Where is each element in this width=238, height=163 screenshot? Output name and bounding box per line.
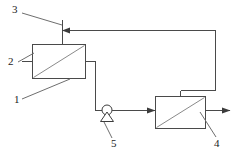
- permeate-outlet-arrowhead-icon: [222, 108, 231, 114]
- leader-line-3: [22, 13, 62, 25]
- second-membrane-module: [156, 97, 206, 129]
- circulation-pump: [101, 105, 114, 122]
- reference-label-5: 5: [111, 138, 117, 149]
- first-membrane-module: [22, 45, 86, 79]
- reference-label-4: 4: [214, 138, 220, 149]
- feed-inlet-arrowhead-icon: [62, 28, 70, 34]
- right-side-return-path: [181, 31, 216, 97]
- right-module-inlet-arrowhead-icon: [147, 108, 156, 114]
- flow-diagram-canvas: [0, 0, 238, 163]
- process-flow-diagram: 3 2 1 5 4: [0, 0, 238, 163]
- feed-inlet-line: [62, 20, 216, 44]
- pump-discharge-path: [112, 108, 156, 114]
- leader-line-1: [22, 79, 70, 99]
- reference-label-1: 1: [14, 94, 20, 105]
- reference-label-2: 2: [8, 56, 14, 67]
- pump-base-triangle-icon: [101, 112, 114, 122]
- permeate-outlet-line: [206, 108, 231, 114]
- leader-line-2: [18, 53, 34, 62]
- reference-label-3: 3: [12, 4, 18, 15]
- left-module-to-pump-path: [86, 62, 103, 111]
- leader-line-5: [104, 122, 112, 138]
